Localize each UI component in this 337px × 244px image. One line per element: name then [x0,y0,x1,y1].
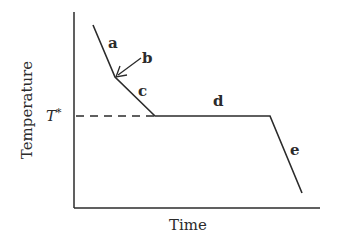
segment-label-e: e [290,141,300,159]
segment-label-d: d [213,92,224,110]
segment-label-c: c [138,82,147,100]
cooling-curve [93,25,302,193]
x-axis-label: Time [169,216,207,234]
t-star-superscript: * [56,106,62,119]
y-axis-label: Temperature [18,61,36,159]
b-arrow-head-icon [116,66,127,77]
t-star-label: T* [46,106,62,125]
cooling-curve-diagram: a b c d e T* Temperature Time [0,0,337,244]
segment-label-b: b [142,49,153,67]
b-arrow-shaft [118,58,141,75]
segment-label-a: a [108,34,118,52]
